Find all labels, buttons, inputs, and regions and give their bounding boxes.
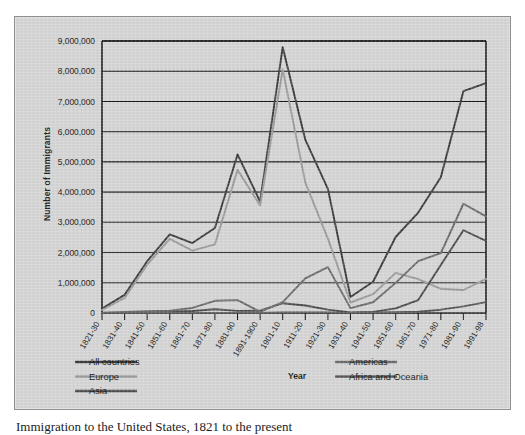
legend-label: Africa and Oceania [349,372,429,382]
x-tick-label: 1861-70 [168,320,192,351]
legend-label: All countries [89,357,140,367]
legend-label: Americas [349,357,388,367]
figure-caption: Immigration to the United States, 1821 t… [16,419,516,435]
y-tick-label: 5,000,000 [58,157,96,167]
y-tick-label: 9,000,000 [58,36,96,46]
y-tick-label: 6,000,000 [58,127,96,137]
legend-item: Americas [335,357,397,367]
x-tick-label: 1851-60 [146,320,170,351]
plot-background [102,41,486,313]
y-tick-label: 2,000,000 [58,248,96,258]
immigration-line-chart: 01,000,0002,000,0003,000,0004,000,0005,0… [15,17,512,411]
legend-item: All countries [75,357,140,367]
y-tick-label: 8,000,000 [58,66,96,76]
x-tick-label: 1961-70 [394,320,418,351]
y-tick-label: 4,000,000 [58,187,96,197]
x-tick-label: 1881-90 [214,320,238,351]
y-tick-label: 7,000,000 [58,97,96,107]
legend-label: Asia [89,386,108,396]
y-tick-label: 3,000,000 [58,217,96,227]
x-tick-label: 1951-60 [372,320,396,351]
legend-item: Asia [75,386,137,396]
x-tick-label: 1871-80 [191,320,215,351]
x-tick-label: 1831-40 [101,320,125,351]
y-tick-label: 1,000,000 [58,278,96,288]
legend-label: Europe [89,372,119,382]
x-tick-label: 1911-20 [282,320,305,350]
x-tick-label: 1981-90 [440,320,464,351]
x-tick-label: 1941-50 [349,320,373,351]
x-axis-title: Year [288,371,307,381]
x-tick-label: 1841-50 [123,320,147,351]
x-tick-label: 1821-30 [78,320,102,351]
x-tick-label: 1971-80 [417,320,441,351]
x-tick-label: 1921-30 [304,320,328,351]
legend-item: Africa and Oceania [335,372,429,382]
legend-item: Europe [75,372,137,382]
x-tick-label: 1991-98 [462,320,486,351]
y-tick-label: 0 [90,308,95,318]
figure-frame: Number of Immigrants 01,000,0002,000,000… [14,16,511,410]
x-tick-label: 1931-40 [327,320,351,351]
x-tick-label: 1901-10 [259,320,283,351]
